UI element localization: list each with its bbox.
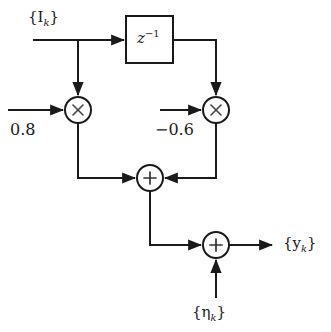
coefficient-1-label: 0.8 — [10, 120, 35, 139]
delay-base: z — [137, 29, 145, 47]
block-diagram-svg — [0, 0, 331, 332]
noise-signal-close: } — [217, 303, 227, 321]
noise-signal-open: {η — [192, 303, 211, 321]
output-signal-open: {y — [283, 234, 301, 252]
output-signal-label: {yk} — [283, 234, 317, 254]
wire-delay-to-multiplier-2 — [173, 40, 216, 95]
coefficient-2-label: −0.6 — [155, 120, 194, 139]
output-signal-close: } — [307, 234, 317, 252]
input-signal-label: {Ik} — [28, 8, 59, 28]
wire-multiplier-1-to-adder-1 — [78, 123, 135, 178]
delay-block-label: z−1 — [137, 28, 159, 47]
noise-signal-label: {ηk} — [192, 303, 226, 323]
input-signal-close: } — [49, 8, 59, 26]
input-signal-open: {I — [28, 8, 43, 26]
diagram-canvas: {Ik} z−1 0.8 −0.6 {yk} {ηk} — [0, 0, 331, 332]
wire-adder-1-to-adder-2 — [150, 191, 201, 245]
delay-exponent: −1 — [145, 28, 160, 39]
